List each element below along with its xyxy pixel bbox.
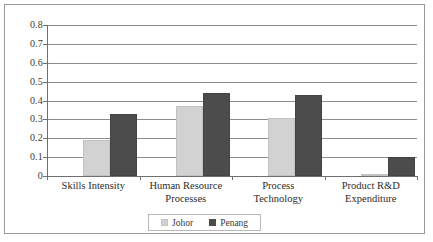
chart-figure: 0.80.70.60.50.40.30.20.10 Skills Intensi… [4, 4, 425, 234]
y-tick-label: 0.6 [9, 58, 43, 68]
bar-johor [176, 106, 203, 176]
y-axis-tick-labels: 0.80.70.60.50.40.30.20.10 [5, 25, 43, 177]
y-tick-mark [43, 44, 47, 45]
bar-penang [295, 95, 322, 176]
legend-entry: Johor [161, 218, 193, 228]
category-axis-labels: Skills IntensityHuman ResourceProcessesP… [47, 180, 417, 214]
y-tick-label: 0.3 [9, 114, 43, 124]
y-tick-mark [43, 157, 47, 158]
bar-penang [203, 93, 230, 176]
category-label-line: Human Resource [140, 180, 233, 193]
category-label-line: Product R&D [325, 180, 418, 193]
category-label: Human ResourceProcesses [140, 180, 233, 205]
y-tick-mark [43, 138, 47, 139]
chart-legend: JohorPenang [148, 214, 261, 231]
y-tick-label: 0 [9, 171, 43, 181]
y-tick-mark [43, 119, 47, 120]
y-tick-label: 0.4 [9, 96, 43, 106]
bar-group [232, 25, 325, 176]
bar-penang [388, 157, 415, 176]
category-label-line: Processes [140, 193, 233, 206]
category-label-line: Technology [232, 193, 325, 206]
penang-swatch-icon [209, 219, 216, 226]
y-tick-label: 0.2 [9, 133, 43, 143]
bar-penang [110, 114, 137, 176]
category-tick-mark [232, 176, 233, 180]
value-axis-line [47, 25, 48, 177]
category-tick-mark [140, 176, 141, 180]
johor-swatch-icon [161, 219, 168, 226]
category-label: Skills Intensity [47, 180, 140, 193]
y-tick-label: 0.5 [9, 77, 43, 87]
y-tick-mark [43, 25, 47, 26]
category-label-line: Skills Intensity [47, 180, 140, 193]
legend-label: Johor [172, 218, 193, 228]
plot-area [47, 25, 417, 176]
y-tick-label: 0.7 [9, 39, 43, 49]
legend-label: Penang [220, 218, 248, 228]
y-tick-mark [43, 101, 47, 102]
bar-johor [268, 118, 295, 177]
category-tick-mark [417, 176, 418, 180]
y-tick-mark [43, 82, 47, 83]
y-tick-label: 0.1 [9, 152, 43, 162]
y-tick-label: 0.8 [9, 20, 43, 30]
category-label: ProcessTechnology [232, 180, 325, 205]
bar-group [325, 25, 418, 176]
category-tick-mark [47, 176, 48, 180]
bar-johor [83, 140, 110, 176]
category-label-line: Expenditure [325, 193, 418, 206]
bar-group [47, 25, 140, 176]
category-tick-mark [325, 176, 326, 180]
category-label-line: Process [232, 180, 325, 193]
category-label: Product R&DExpenditure [325, 180, 418, 205]
bar-group [140, 25, 233, 176]
legend-entry: Penang [209, 218, 248, 228]
y-tick-mark [43, 63, 47, 64]
